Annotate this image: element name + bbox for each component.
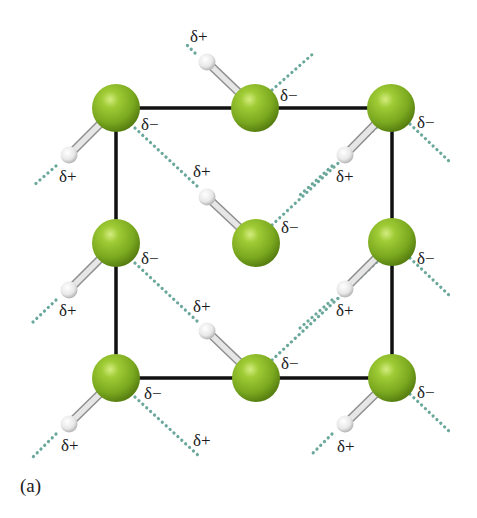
partial-positive-label: δ+ <box>193 163 211 180</box>
dotted-interaction-line <box>33 434 56 457</box>
dotted-interaction-line <box>135 397 200 457</box>
hydrogen-atom <box>337 147 354 164</box>
partial-negative-label: δ− <box>417 250 435 267</box>
partial-positive-label: δ+ <box>59 168 77 185</box>
partial-negative-label: δ− <box>281 355 299 372</box>
hydrogen-atom <box>61 147 78 164</box>
partial-positive-label: δ+ <box>59 302 77 319</box>
dotted-interaction-line <box>310 434 332 456</box>
hydrogen-atom <box>199 189 216 206</box>
chlorine-atom <box>232 219 280 267</box>
partial-positive-label: δ+ <box>336 168 354 185</box>
partial-negative-label: δ− <box>417 114 435 131</box>
hydrogen-atom <box>61 416 78 433</box>
partial-positive-label: δ+ <box>193 298 211 315</box>
chlorine-atom <box>231 84 279 132</box>
partial-negative-label: δ− <box>141 250 159 267</box>
chlorine-atom <box>92 219 140 267</box>
dotted-interaction-line <box>33 166 56 186</box>
chlorine-atom <box>232 354 280 402</box>
dotted-interaction-line <box>272 52 315 90</box>
partial-negative-label: δ− <box>417 384 435 401</box>
figure-caption: (a) <box>20 475 41 497</box>
partial-negative-label: δ− <box>280 87 298 104</box>
hydrogen-atom <box>337 416 354 433</box>
chlorine-atom <box>367 84 415 132</box>
chlorine-atom <box>368 218 416 266</box>
chlorine-atom <box>92 354 140 402</box>
partial-positive-label: δ+ <box>193 432 211 449</box>
partial-negative-label: δ− <box>141 116 159 133</box>
dotted-interaction-line <box>300 166 332 195</box>
chlorine-atom <box>92 84 140 132</box>
dotted-interaction-line <box>135 263 197 321</box>
partial-negative-label: δ− <box>281 219 299 236</box>
partial-positive-label: δ+ <box>190 28 208 45</box>
partial-negative-label: δ− <box>144 385 162 402</box>
partial-positive-label: δ+ <box>61 437 79 454</box>
atoms <box>61 54 417 433</box>
hydrogen-atom <box>199 323 216 340</box>
dotted-interaction-line <box>33 300 56 322</box>
dotted-interaction-line <box>135 128 197 186</box>
hydrogen-atom <box>61 282 78 299</box>
chlorine-atom <box>368 354 416 402</box>
partial-positive-label: δ+ <box>336 302 354 319</box>
hydrogen-atom <box>199 54 216 71</box>
dotted-interaction-line <box>300 300 332 328</box>
dotted-interaction-line <box>187 45 195 53</box>
hydrogen-atom <box>337 281 354 298</box>
partial-positive-label: δ+ <box>337 438 355 455</box>
